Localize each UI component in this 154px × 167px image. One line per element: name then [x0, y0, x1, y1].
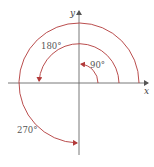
label-270-degrees: 270° [17, 125, 37, 135]
y-axis-label: y [69, 8, 76, 18]
x-axis-label: x [144, 86, 149, 96]
angle-diagram: y x 90° 180° 270° [0, 0, 154, 167]
label-90-degrees: 90° [90, 60, 105, 70]
label-180-degrees: 180° [41, 41, 61, 51]
